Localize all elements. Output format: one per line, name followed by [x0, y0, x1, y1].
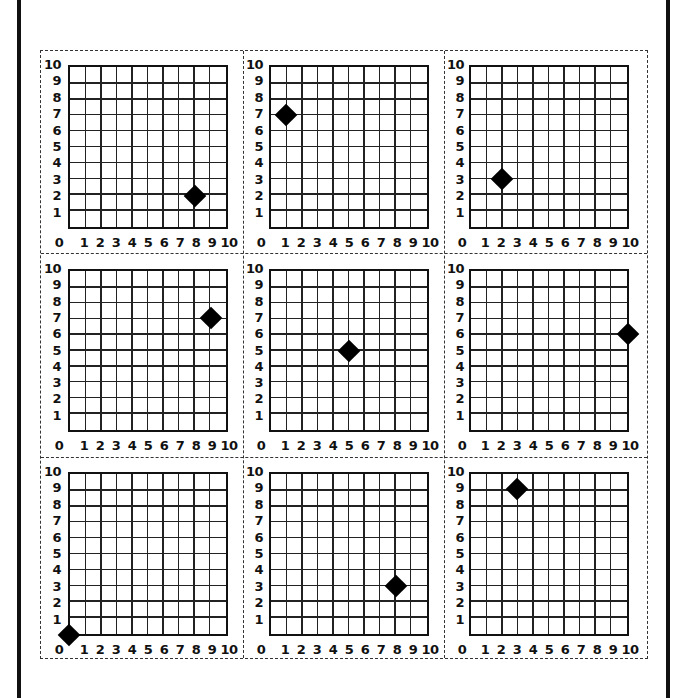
cut-line-vertical-2: [444, 51, 445, 658]
gridline-vertical: [610, 474, 612, 634]
gridline-vertical: [394, 67, 396, 227]
x-axis-label: 1: [76, 643, 92, 656]
y-axis-label: 3: [245, 580, 263, 593]
page-border-right: [666, 0, 670, 698]
x-axis-label: 4: [525, 643, 541, 656]
x-axis-label: 5: [541, 439, 557, 452]
y-axis-label: 2: [446, 596, 464, 609]
gridline-horizontal: [70, 585, 226, 587]
y-axis-label: 5: [446, 547, 464, 560]
grid-1: [68, 65, 228, 229]
x-axis-label: 1: [277, 439, 293, 452]
x-axis-label: 10: [421, 236, 439, 249]
x-axis-label: 3: [108, 236, 124, 249]
x-axis-label: 0: [253, 643, 269, 656]
x-axis-label: 9: [204, 643, 220, 656]
y-axis-label: 8: [245, 91, 263, 104]
gridline-vertical: [363, 271, 365, 430]
y-axis-label: 7: [43, 311, 61, 324]
x-axis-label: 8: [188, 643, 204, 656]
y-axis-label: 9: [245, 481, 263, 494]
gridline-vertical: [162, 271, 164, 430]
gridline-horizontal: [471, 569, 627, 571]
y-axis-label: 9: [446, 74, 464, 87]
y-axis-label: 2: [245, 189, 263, 202]
x-axis-label: 9: [605, 236, 621, 249]
x-axis-label: 10: [421, 643, 439, 656]
x-axis-label: 6: [156, 236, 172, 249]
x-axis-label: 6: [557, 236, 573, 249]
gridline-vertical: [209, 67, 211, 227]
gridline-horizontal: [271, 365, 427, 367]
y-axis-label: 4: [446, 563, 464, 576]
y-axis-label: 9: [245, 278, 263, 291]
x-axis-label: 0: [253, 236, 269, 249]
y-axis-label: 1: [446, 409, 464, 422]
y-axis-label: 6: [245, 531, 263, 544]
x-axis-label: 2: [493, 643, 509, 656]
gridline-vertical: [193, 474, 195, 634]
grid-8: [269, 472, 429, 636]
y-axis-label: 1: [446, 206, 464, 219]
y-axis-label: 2: [43, 392, 61, 405]
x-axis-label: 3: [108, 643, 124, 656]
x-axis-label: 5: [341, 643, 357, 656]
gridline-horizontal: [271, 600, 427, 602]
gridline-vertical: [410, 474, 412, 634]
y-axis-label: 3: [43, 580, 61, 593]
y-axis-label: 6: [245, 124, 263, 137]
y-axis-label: 1: [446, 613, 464, 626]
gridline-horizontal: [271, 162, 427, 164]
x-axis-label: 3: [309, 236, 325, 249]
x-axis-label: 8: [589, 643, 605, 656]
x-axis-label: 10: [621, 236, 639, 249]
gridline-horizontal: [271, 193, 427, 195]
x-axis-label: 8: [389, 643, 405, 656]
x-axis-label: 7: [573, 236, 589, 249]
gridline-vertical: [379, 474, 381, 634]
gridline-vertical: [563, 271, 565, 430]
cut-line-horizontal-2: [41, 457, 647, 458]
gridline-horizontal: [271, 412, 427, 414]
x-axis-label: 3: [309, 643, 325, 656]
gridline-horizontal: [271, 146, 427, 148]
y-axis-label: 2: [245, 596, 263, 609]
gridline-vertical: [363, 67, 365, 227]
gridline-vertical: [410, 67, 412, 227]
y-axis-label: 8: [446, 295, 464, 308]
x-axis-label: 9: [204, 439, 220, 452]
x-axis-label: 8: [389, 236, 405, 249]
y-axis-label: 2: [43, 189, 61, 202]
grid-3: [469, 65, 629, 229]
grid-9: [469, 472, 629, 636]
y-axis-label: 7: [446, 107, 464, 120]
gridline-horizontal: [271, 381, 427, 383]
y-axis-label: 9: [43, 278, 61, 291]
x-axis-label: 1: [277, 236, 293, 249]
x-axis-label: 2: [92, 236, 108, 249]
y-axis-label: 3: [245, 173, 263, 186]
gridline-vertical: [579, 271, 581, 430]
x-axis-label: 1: [477, 643, 493, 656]
gridline-vertical: [379, 271, 381, 430]
y-axis-label: 5: [43, 344, 61, 357]
y-axis-label: 8: [446, 91, 464, 104]
y-axis-label: 10: [446, 465, 464, 478]
x-axis-label: 0: [454, 236, 470, 249]
x-axis-label: 3: [108, 439, 124, 452]
y-axis-label: 9: [43, 74, 61, 87]
y-axis-label: 6: [446, 531, 464, 544]
gridline-horizontal: [70, 162, 226, 164]
x-axis-label: 4: [525, 439, 541, 452]
gridline-horizontal: [271, 569, 427, 571]
gridline-horizontal: [70, 349, 226, 351]
grid-7: [68, 472, 228, 636]
x-axis-label: 7: [373, 439, 389, 452]
x-axis-label: 6: [357, 236, 373, 249]
y-axis-label: 6: [43, 124, 61, 137]
gridline-horizontal: [271, 553, 427, 555]
x-axis-label: 0: [51, 236, 67, 249]
gridline-vertical: [394, 474, 396, 634]
y-axis-label: 8: [245, 295, 263, 308]
y-axis-label: 5: [245, 344, 263, 357]
